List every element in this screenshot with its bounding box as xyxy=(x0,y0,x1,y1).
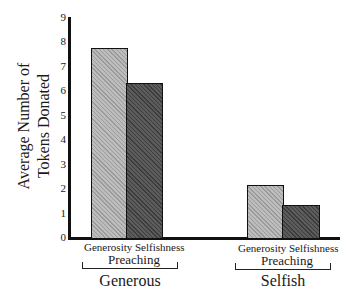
y-axis xyxy=(68,17,71,239)
bracket-selfish xyxy=(235,263,331,270)
y-tick-3: 3 xyxy=(56,158,66,170)
y-axis-label-line-2: Tokens Donated xyxy=(34,34,54,218)
bracket-generous xyxy=(82,262,178,269)
bar-selfish-generosity xyxy=(247,185,284,239)
group-label-selfish: Selfish xyxy=(233,272,333,290)
y-tick-2: 2 xyxy=(56,182,66,194)
y-tick-0: 0 xyxy=(56,231,66,243)
bar-selfish-selfishness xyxy=(282,205,320,239)
y-axis-label-line-1: Average Number of xyxy=(14,34,34,218)
y-tick-4: 4 xyxy=(56,133,66,145)
y-tick-6: 6 xyxy=(56,84,66,96)
bar-generous-selfishness xyxy=(126,83,163,239)
bar-generous-generosity xyxy=(91,48,128,239)
y-tick-9: 9 xyxy=(56,11,66,23)
y-tick-8: 8 xyxy=(56,35,66,47)
group-label-generous: Generous xyxy=(80,272,180,290)
y-tick-5: 5 xyxy=(56,109,66,121)
y-tick-1: 1 xyxy=(56,207,66,219)
y-tick-7: 7 xyxy=(56,60,66,72)
